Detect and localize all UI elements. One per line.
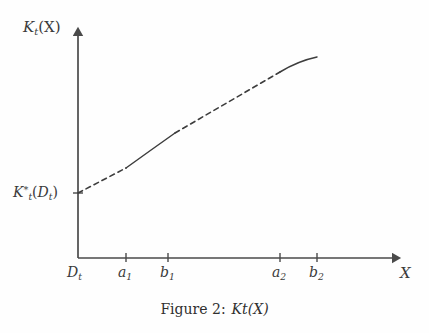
curve-solid-segment-2 [280, 57, 317, 72]
figure-container: Kt(X) K*t(Dt) Dt a1 b1 a2 b2 X Figure 2:… [0, 0, 429, 333]
curve-dashed-segment-2 [175, 72, 280, 133]
x-tick-label-a2: a2 [272, 265, 286, 281]
y-tick-label-Kstar-Dt: K*t(Dt) [13, 185, 58, 201]
xtick-b1-sub: 1 [169, 271, 175, 282]
x-tick-label-b1: b1 [160, 265, 175, 281]
curve-solid-segment-1 [126, 133, 175, 168]
x-axis-label-main: X [400, 264, 411, 282]
xtick-Dt-main: D [67, 264, 78, 280]
ytick-paren-close: ) [53, 184, 58, 200]
xtick-a2-sub: 2 [280, 271, 286, 282]
xtick-b2-sub: 2 [318, 271, 324, 282]
xtick-Dt-sub: t [78, 271, 82, 282]
caption-expression: Kt(X) [232, 301, 269, 317]
x-tick-label-Dt: Dt [67, 265, 82, 281]
ytick-main: K [13, 184, 23, 200]
plot-area [0, 0, 429, 333]
caption-prefix: Figure 2: [160, 301, 225, 317]
figure-caption: Figure 2:Kt(X) [0, 301, 429, 317]
y-axis-label: Kt(X) [23, 20, 61, 37]
y-axis-label-arg: (X) [38, 18, 60, 36]
caption-expr-arg: (X) [248, 301, 269, 317]
x-axis-label: X [400, 266, 411, 281]
curve-dashed-segment-1 [78, 168, 126, 193]
caption-expr-main: K [232, 301, 242, 317]
ytick-arg-main: D [38, 184, 49, 200]
x-tick-label-a1: a1 [118, 265, 132, 281]
xtick-b2-main: b [309, 264, 318, 280]
x-tick-label-b2: b2 [309, 265, 324, 281]
xtick-a1-sub: 1 [126, 271, 132, 282]
xtick-b1-main: b [160, 264, 169, 280]
y-axis-label-main: K [23, 18, 34, 36]
